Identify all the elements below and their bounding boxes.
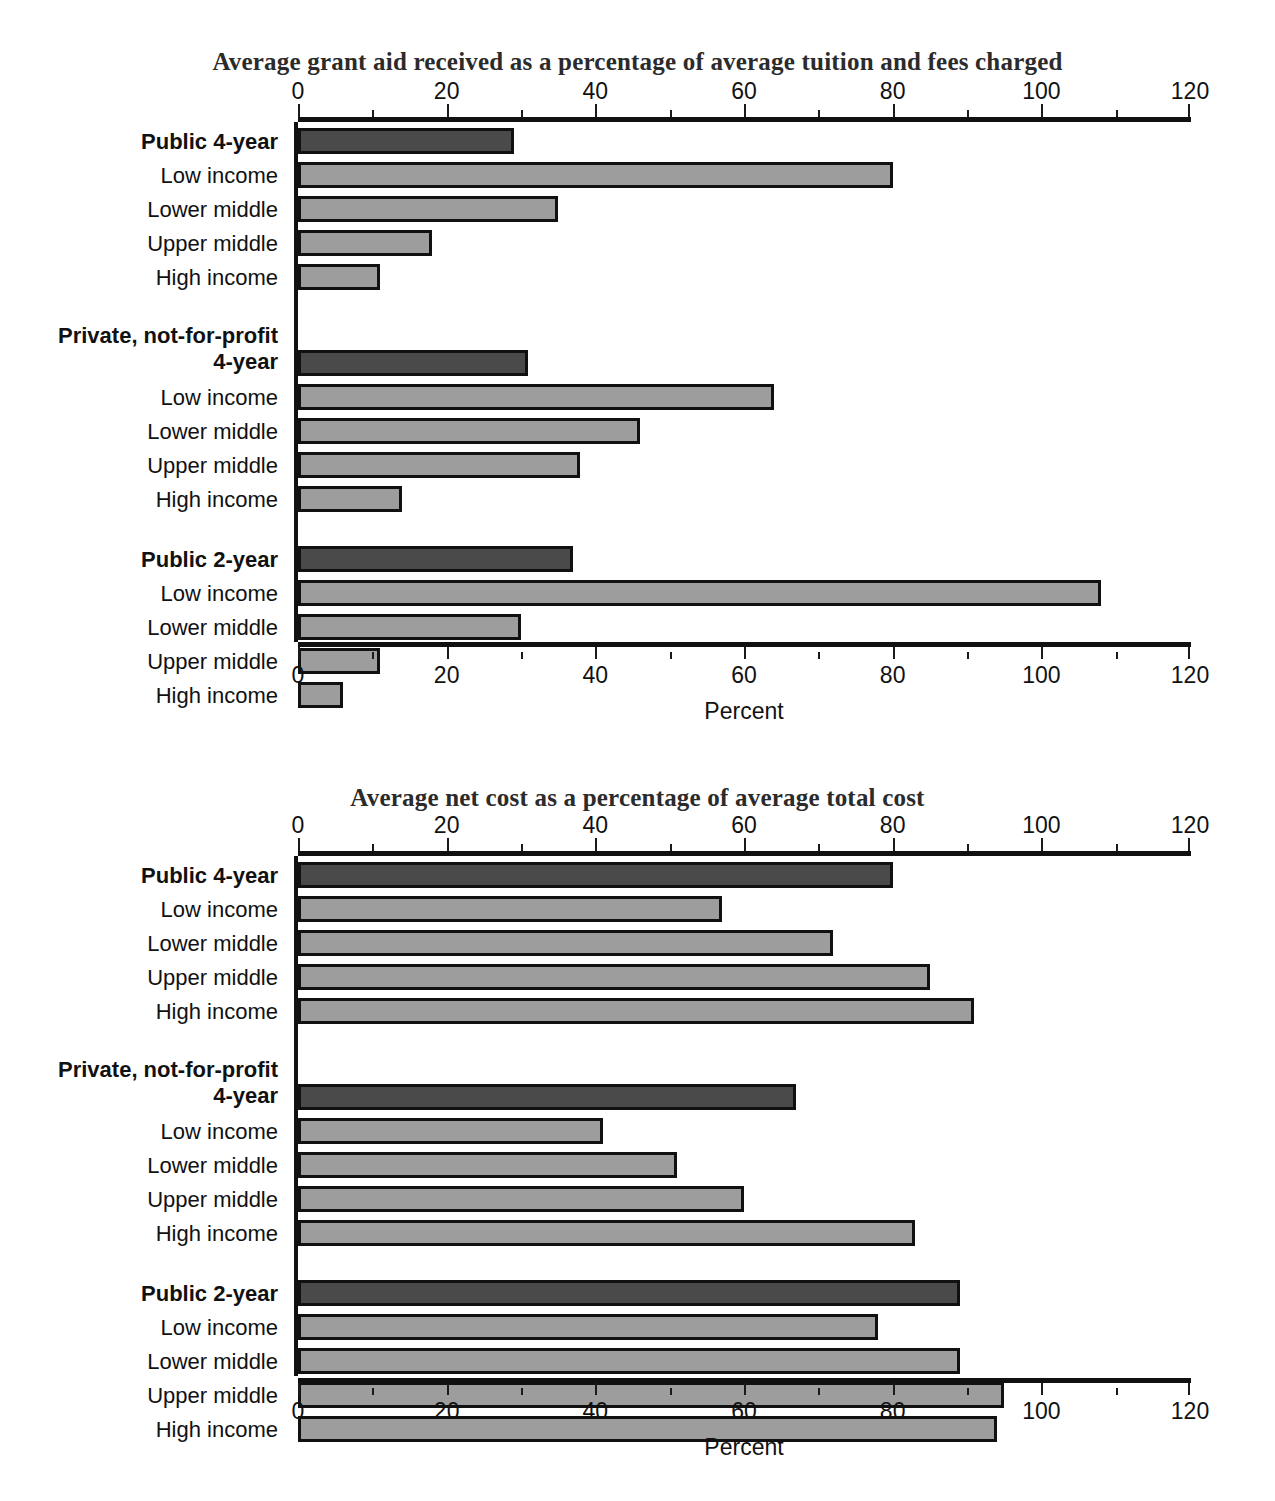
x-tick-label: 40 — [583, 1398, 609, 1425]
bar-row[interactable] — [298, 384, 1190, 410]
x-tick-major — [1188, 1382, 1190, 1395]
bar-row[interactable] — [298, 1348, 1190, 1374]
bar-income-segment[interactable] — [298, 1220, 915, 1246]
x-tick-major — [595, 646, 597, 659]
bar-row[interactable] — [298, 1152, 1190, 1178]
bar-income-segment[interactable] — [298, 162, 893, 188]
x-tick-minor — [967, 652, 969, 659]
x-tick-minor — [670, 652, 672, 659]
bar-row[interactable] — [298, 998, 1190, 1024]
bar-row[interactable] — [298, 1220, 1190, 1246]
bar-income-segment[interactable] — [298, 1118, 603, 1144]
bar-income-segment[interactable] — [298, 418, 640, 444]
bar-income-segment[interactable] — [298, 964, 930, 990]
y-label-income: Upper middle — [147, 965, 278, 990]
x-tick-major — [447, 1382, 449, 1395]
y-label-income: Lower middle — [147, 1153, 278, 1178]
bar-income-segment[interactable] — [298, 1152, 677, 1178]
x-tick-major — [595, 1382, 597, 1395]
bar-group-total[interactable] — [298, 862, 893, 888]
y-label-income: High income — [156, 999, 278, 1024]
x-tick-major — [744, 104, 746, 117]
bar-row[interactable] — [298, 896, 1190, 922]
bar-income-segment[interactable] — [298, 486, 402, 512]
x-tick-major — [447, 838, 449, 851]
bar-row[interactable] — [298, 1314, 1190, 1340]
x-tick-label: 40 — [583, 78, 609, 105]
y-label-income: Low income — [161, 163, 278, 188]
bar-income-segment[interactable] — [298, 196, 558, 222]
bar-income-segment[interactable] — [298, 1348, 960, 1374]
y-label-income: Upper middle — [147, 1383, 278, 1408]
bar-income-segment[interactable] — [298, 896, 722, 922]
x-tick-major — [298, 646, 300, 659]
bar-row[interactable] — [298, 264, 1190, 290]
bar-row[interactable] — [298, 486, 1190, 512]
x-tick-minor — [1116, 652, 1118, 659]
x-tick-minor — [818, 110, 820, 117]
bar-row[interactable] — [298, 350, 1190, 376]
bar-income-segment[interactable] — [298, 452, 580, 478]
bar-group-total[interactable] — [298, 128, 514, 154]
bar-group-total[interactable] — [298, 1084, 796, 1110]
bar-row[interactable] — [298, 452, 1190, 478]
x-axis-line-top-bottom — [298, 642, 1191, 647]
bar-row[interactable] — [298, 196, 1190, 222]
bar-row[interactable] — [298, 580, 1190, 606]
x-tick-label: 120 — [1171, 662, 1209, 689]
bar-row[interactable] — [298, 862, 1190, 888]
bar-income-segment[interactable] — [298, 1314, 878, 1340]
bar-row[interactable] — [298, 546, 1190, 572]
x-tick-label: 60 — [731, 78, 757, 105]
bar-group-total[interactable] — [298, 1280, 960, 1306]
x-tick-minor — [670, 110, 672, 117]
x-tick-minor — [372, 1388, 374, 1395]
bar-income-segment[interactable] — [298, 384, 774, 410]
bar-row[interactable] — [298, 1280, 1190, 1306]
bar-income-segment[interactable] — [298, 998, 974, 1024]
y-label-income: Low income — [161, 1315, 278, 1340]
x-tick-label: 120 — [1171, 78, 1209, 105]
bar-row[interactable] — [298, 230, 1190, 256]
bar-income-segment[interactable] — [298, 230, 432, 256]
y-label-income: High income — [156, 683, 278, 708]
x-tick-label: 100 — [1022, 662, 1060, 689]
bar-row[interactable] — [298, 1118, 1190, 1144]
y-label-income: Low income — [161, 385, 278, 410]
bar-group-total[interactable] — [298, 350, 528, 376]
x-tick-label: 40 — [583, 812, 609, 839]
bar-income-segment[interactable] — [298, 930, 833, 956]
bar-row[interactable] — [298, 1084, 1190, 1110]
x-tick-label: 20 — [434, 662, 460, 689]
bar-row[interactable] — [298, 128, 1190, 154]
bar-income-segment[interactable] — [298, 614, 521, 640]
x-tick-label: 60 — [731, 662, 757, 689]
x-axis-tick-labels-bottom-bottom: 020406080100120 — [298, 1398, 1190, 1428]
bar-income-segment[interactable] — [298, 1186, 744, 1212]
bar-row[interactable] — [298, 930, 1190, 956]
x-tick-label: 100 — [1022, 1398, 1060, 1425]
x-tick-major — [893, 104, 895, 117]
bar-row[interactable] — [298, 614, 1190, 640]
y-label-group: Public 4-year — [141, 129, 278, 154]
bar-row[interactable] — [298, 418, 1190, 444]
bar-group-total[interactable] — [298, 546, 573, 572]
x-tick-minor — [818, 652, 820, 659]
x-axis-caption-bottom: Percent — [298, 1434, 1190, 1461]
x-tick-minor — [818, 1388, 820, 1395]
x-axis-line-bottom-bottom — [298, 1378, 1191, 1383]
bar-income-segment[interactable] — [298, 580, 1101, 606]
bar-row[interactable] — [298, 1186, 1190, 1212]
bar-row[interactable] — [298, 964, 1190, 990]
x-tick-major — [298, 838, 300, 851]
x-tick-major — [1041, 104, 1043, 117]
x-tick-label: 60 — [731, 1398, 757, 1425]
bar-income-segment[interactable] — [298, 264, 380, 290]
y-label-income: Low income — [161, 581, 278, 606]
y-label-group: Public 2-year — [141, 547, 278, 572]
bar-row[interactable] — [298, 162, 1190, 188]
x-tick-label: 0 — [292, 78, 305, 105]
x-tick-minor — [967, 110, 969, 117]
x-axis-ticks-top — [298, 104, 1190, 117]
x-tick-major — [744, 646, 746, 659]
